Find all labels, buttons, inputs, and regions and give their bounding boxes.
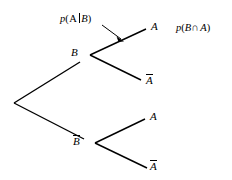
joint-close-paren: ) (207, 22, 211, 33)
branch-b-to-a (90, 29, 146, 55)
conditional-event: A (69, 13, 77, 24)
intersection-icon: ∩ (191, 22, 199, 33)
probability-tree-figure: p(AB) p(B∩A) B B A A A A (0, 0, 232, 180)
leaf-label-abar-given-bbar: A (150, 160, 157, 172)
conditional-probability-label: p(AB) (60, 13, 91, 24)
conditional-close-paren: ) (88, 13, 92, 24)
joint-probability-label: p(B∩A) (176, 23, 210, 34)
node-label-b-complement: B (73, 135, 80, 147)
branch-bbar-to-abar (95, 143, 147, 168)
overbar-wrap-b: B (73, 135, 80, 147)
pointer-arrow (102, 25, 124, 42)
leaf-label-a-given-bbar: A (150, 111, 157, 122)
overbar-wrap-a-1: A (146, 74, 153, 86)
leaf-label-abar-given-b: A (146, 74, 153, 86)
branch-bbar-to-a (95, 119, 145, 143)
leaf-label-a-given-b: A (151, 21, 158, 32)
overbar-wrap-a-2: A (150, 160, 157, 172)
node-label-b: B (71, 47, 78, 58)
branch-root-to-bbar (14, 103, 84, 139)
branch-b-to-abar (90, 55, 141, 80)
branch-root-to-b (14, 62, 80, 103)
conditional-given-bar (79, 13, 80, 23)
